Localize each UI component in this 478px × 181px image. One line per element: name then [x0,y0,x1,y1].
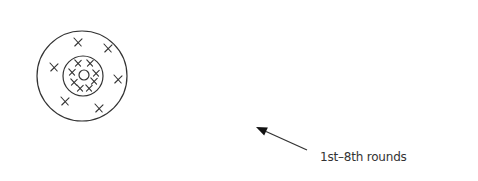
outer-ring [37,31,127,121]
x-mark-icon [114,75,122,83]
x-mark-icon [50,63,58,71]
x-mark-icon [75,60,81,66]
inner-ring [63,56,103,96]
rounds-label: 1st–8th rounds [320,150,407,164]
x-mark-icon [77,85,83,91]
shot-marks [50,38,122,112]
x-mark-icon [104,44,112,52]
x-mark-icon [93,70,99,76]
x-mark-icon [74,38,82,46]
x-mark-icon [71,79,77,85]
x-mark-icon [86,85,92,91]
x-mark-icon [69,69,75,75]
target-rings [37,31,127,121]
x-mark-icon [61,97,69,105]
x-mark-icon [87,60,93,66]
pointer-arrow-icon [256,127,307,150]
bullseye [79,70,89,80]
x-mark-icon [95,104,103,112]
x-mark-icon [91,78,97,84]
